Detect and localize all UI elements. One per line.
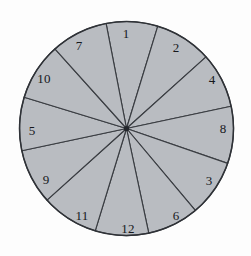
sector-label-12: 12: [121, 222, 134, 235]
sector-label-2: 2: [173, 41, 180, 54]
sector-wheel-figure: 124836121195107: [0, 0, 251, 256]
sector-label-8: 8: [220, 122, 227, 135]
wheel-center-dot: [124, 126, 129, 131]
sector-label-3: 3: [206, 174, 213, 187]
sector-label-5: 5: [29, 124, 36, 137]
sector-label-10: 10: [37, 72, 50, 85]
sector-label-9: 9: [43, 173, 50, 186]
sector-label-7: 7: [76, 39, 83, 52]
sector-label-1: 1: [123, 27, 130, 40]
sector-label-6: 6: [173, 209, 180, 222]
sector-label-4: 4: [209, 73, 216, 86]
sector-label-11: 11: [76, 209, 89, 222]
